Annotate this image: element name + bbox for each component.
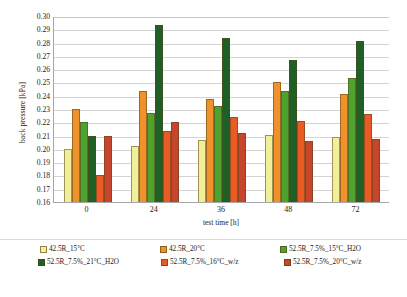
y-axis-tick-label: 0.30 — [14, 13, 50, 21]
bar — [155, 25, 163, 202]
legend-row-2: 52.5R_7.5%_21°C_H2O52.5R_7.5%_16°C_w/z52… — [0, 258, 407, 266]
legend-swatch-icon — [284, 259, 291, 266]
bar — [340, 94, 348, 202]
bar-group — [255, 17, 322, 202]
y-axis-tick-label: 0.21 — [14, 133, 50, 141]
y-axis-tick-label: 0.17 — [14, 186, 50, 194]
legend-label: 52.5R_7.5%_15°C_H2O — [289, 245, 361, 253]
legend-swatch-icon — [161, 259, 168, 266]
bar — [332, 137, 340, 202]
chart-legend: 42.5R_15°C42.5R_20°C52.5R_7.5%_15°C_H2O … — [0, 239, 407, 266]
x-axis-tick-label: 36 — [187, 205, 254, 214]
bar — [222, 38, 230, 202]
y-axis-tick-label: 0.22 — [14, 119, 50, 127]
legend-swatch-icon — [40, 246, 47, 253]
y-axis-tick-label: 0.16 — [14, 199, 50, 207]
bar — [238, 133, 246, 202]
bar — [72, 109, 80, 202]
legend-swatch-icon — [280, 246, 287, 253]
bar — [265, 135, 273, 202]
legend-label: 52.5R_7.5%_16°C_w/z — [170, 258, 238, 266]
bar-group — [121, 17, 188, 202]
y-axis-tick-label: 0.29 — [14, 26, 50, 34]
bar — [171, 122, 179, 202]
y-axis-tick-label: 0.24 — [14, 93, 50, 101]
bar — [273, 82, 281, 202]
bar — [305, 141, 313, 202]
x-axis-tick-label: 24 — [120, 205, 187, 214]
x-axis-title: test time [h] — [53, 218, 389, 227]
legend-item[interactable]: 42.5R_15°C — [40, 245, 160, 253]
bar — [64, 149, 72, 202]
bar — [139, 91, 147, 202]
y-axis-tick-label: 0.20 — [14, 146, 50, 154]
x-axis-tick-label: 0 — [53, 205, 120, 214]
bar-group — [188, 17, 255, 202]
x-axis-tick-label: 72 — [322, 205, 389, 214]
bar-group — [322, 17, 389, 202]
legend-item[interactable]: 52.5R_7.5%_20°C_w/z — [284, 258, 407, 266]
legend-item[interactable]: 52.5R_7.5%_21°C_H2O — [38, 258, 161, 266]
bar — [147, 113, 155, 202]
bar — [104, 136, 112, 202]
bar — [281, 91, 289, 202]
y-axis-tick-label: 0.26 — [14, 66, 50, 74]
y-axis-tick-label: 0.28 — [14, 40, 50, 48]
plot-area — [53, 17, 389, 203]
bar — [80, 122, 88, 202]
bar — [198, 140, 206, 202]
bar — [96, 175, 104, 202]
legend-label: 42.5R_20°C — [169, 245, 205, 253]
y-axis-tick-labels: 0.300.290.280.270.260.250.240.230.220.21… — [14, 17, 50, 203]
bar — [348, 78, 356, 202]
bar — [356, 41, 364, 202]
bar — [297, 121, 305, 202]
y-axis-tick-label: 0.27 — [14, 53, 50, 61]
bar — [163, 131, 171, 202]
legend-label: 52.5R_7.5%_20°C_w/z — [293, 258, 361, 266]
legend-item[interactable]: 42.5R_20°C — [160, 245, 280, 253]
legend-swatch-icon — [38, 259, 45, 266]
legend-swatch-icon — [160, 246, 167, 253]
y-axis-tick-label: 0.18 — [14, 172, 50, 180]
legend-row-1: 42.5R_15°C42.5R_20°C52.5R_7.5%_15°C_H2O — [0, 245, 407, 253]
bar-chart: back pressure [kPa] 0.300.290.280.270.26… — [0, 0, 407, 297]
bar — [206, 99, 214, 202]
x-axis-tick-label: 48 — [255, 205, 322, 214]
bar — [230, 117, 238, 202]
bar-groups — [54, 17, 389, 202]
bar — [372, 139, 380, 202]
bar — [88, 136, 96, 202]
legend-item[interactable]: 52.5R_7.5%_16°C_w/z — [161, 258, 284, 266]
bar — [131, 146, 139, 202]
y-axis-tick-label: 0.25 — [14, 79, 50, 87]
legend-label: 42.5R_15°C — [49, 245, 85, 253]
bar — [289, 60, 297, 202]
y-axis-tick-label: 0.19 — [14, 159, 50, 167]
bar — [214, 106, 222, 202]
bar — [364, 114, 372, 202]
x-axis-tick-labels: 024364872 — [53, 205, 389, 214]
legend-label: 52.5R_7.5%_21°C_H2O — [47, 258, 119, 266]
bar-group — [54, 17, 121, 202]
y-axis-tick-label: 0.23 — [14, 106, 50, 114]
legend-item[interactable]: 52.5R_7.5%_15°C_H2O — [280, 245, 400, 253]
